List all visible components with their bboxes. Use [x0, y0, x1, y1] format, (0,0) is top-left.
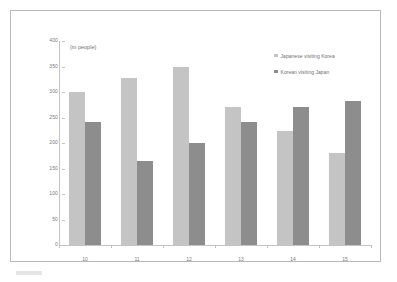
- x-axis-tick-label: 11: [111, 256, 163, 262]
- x-axis-tick-mark: [267, 245, 268, 248]
- y-axis-tick: 250: [33, 118, 65, 119]
- x-axis-tick-label: 13: [215, 256, 267, 262]
- x-axis-tick-mark: [319, 245, 320, 248]
- scanned-page: (m people) Japanese visiting Korea Korea…: [0, 0, 397, 282]
- x-axis-tick-label: 10: [59, 256, 111, 262]
- bar: [189, 143, 205, 246]
- y-axis-tick-label: 0: [55, 241, 58, 247]
- x-axis-tick-mark: [59, 245, 60, 248]
- x-axis-tick-mark: [371, 245, 372, 248]
- bar: [225, 107, 241, 245]
- bar: [277, 131, 293, 245]
- x-axis-tick-label: 15: [319, 256, 371, 262]
- bar: [329, 153, 345, 245]
- bar: [345, 101, 361, 245]
- y-axis-tick-mark: [62, 194, 65, 195]
- bar: [69, 92, 85, 246]
- bar: [293, 107, 309, 245]
- bar: [241, 122, 257, 245]
- y-axis-tick: 200: [33, 143, 65, 144]
- y-axis-tick: 350: [33, 67, 65, 68]
- y-axis-tick-label: 100: [49, 190, 58, 196]
- y-axis-tick-label: 300: [49, 88, 58, 94]
- bar: [121, 78, 137, 245]
- y-axis-tick: 400: [33, 41, 65, 42]
- y-axis-tick-mark: [62, 41, 65, 42]
- x-axis-tick-mark: [111, 245, 112, 248]
- y-axis-tick-mark: [62, 245, 65, 246]
- scan-edge-artifact: [16, 271, 42, 275]
- y-axis-tick: 100: [33, 194, 65, 195]
- y-axis-tick-mark: [62, 118, 65, 119]
- y-axis-tick-mark: [62, 92, 65, 93]
- y-axis-tick-label: 250: [49, 114, 58, 120]
- bar: [137, 161, 153, 245]
- x-axis-tick-label: 14: [267, 256, 319, 262]
- y-axis-tick-label: 200: [49, 139, 58, 145]
- y-axis-tick: 150: [33, 169, 65, 170]
- x-axis-tick-mark: [163, 245, 164, 248]
- x-axis-tick-label: 12: [163, 256, 215, 262]
- y-axis-tick-label: 150: [49, 165, 58, 171]
- y-axis-tick: 50: [33, 220, 65, 221]
- y-axis-tick: 0: [33, 245, 65, 246]
- y-axis-tick-label: 50: [52, 216, 58, 222]
- y-axis-tick-mark: [62, 220, 65, 221]
- plot-area: 050100150200250300350400 101112131415: [59, 41, 371, 245]
- bar: [173, 67, 189, 246]
- y-axis-tick-label: 350: [49, 63, 58, 69]
- y-axis-tick-mark: [62, 143, 65, 144]
- y-axis-tick-label: 400: [49, 37, 58, 43]
- y-axis-tick-mark: [62, 67, 65, 68]
- y-axis-tick-mark: [62, 169, 65, 170]
- x-axis-tick-mark: [215, 245, 216, 248]
- bar: [85, 122, 101, 245]
- chart-frame: (m people) Japanese visiting Korea Korea…: [10, 10, 381, 262]
- y-axis-tick: 300: [33, 92, 65, 93]
